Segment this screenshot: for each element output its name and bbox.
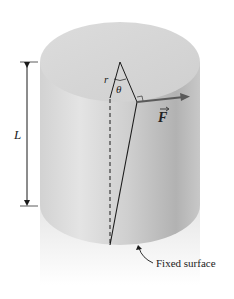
length-label: L: [13, 127, 21, 142]
torsion-diagram: L r θ F Fixed surface: [0, 0, 234, 299]
cylinder: [40, 22, 200, 245]
fixed-surface-label: Fixed surface: [156, 257, 216, 269]
force-label: F: [157, 110, 168, 125]
angle-label: θ: [116, 83, 122, 95]
length-dimension: L: [13, 62, 38, 206]
radius-label: r: [104, 73, 109, 85]
